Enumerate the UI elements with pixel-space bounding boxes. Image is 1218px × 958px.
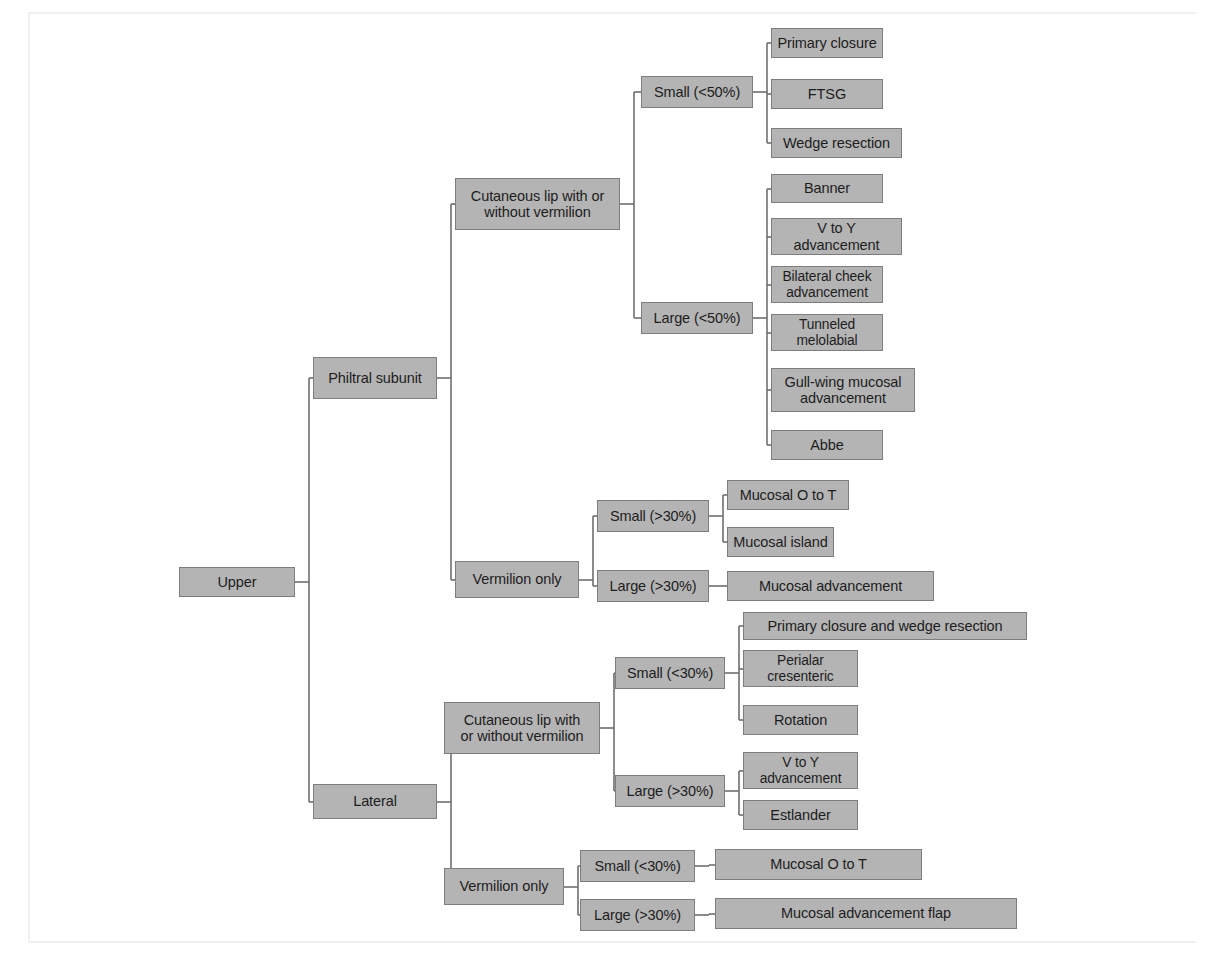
flowchart-canvas: UpperPhiltral subunitLateralCutaneous li… — [0, 0, 1218, 958]
node-mucosal-island: Mucosal island — [727, 527, 834, 557]
node-mucosal-o-to-t-2: Mucosal O to T — [715, 849, 922, 880]
node-l-cut-small: Small (<30%) — [615, 657, 725, 689]
node-mucosal-adv-flap: Mucosal advancement flap — [715, 898, 1017, 929]
node-wedge-resection: Wedge resection — [771, 128, 902, 158]
node-p-verm-large: Large (>30%) — [597, 570, 709, 602]
node-rotation: Rotation — [743, 705, 858, 735]
node-p-cut-large: Large (<50%) — [641, 302, 753, 334]
node-l-verm-large: Large (>30%) — [580, 899, 695, 931]
node-estlander: Estlander — [743, 800, 858, 830]
node-l-cut: Cutaneous lip with or without vermilion — [444, 702, 600, 754]
node-tunneled: Tunneled melolabial — [771, 314, 883, 351]
node-l-cut-large: Large (>30%) — [615, 775, 725, 807]
node-philtral: Philtral subunit — [313, 357, 437, 399]
node-upper: Upper — [179, 567, 295, 597]
page-frame-top-rule — [28, 12, 1196, 14]
node-p-cut: Cutaneous lip with or without vermilion — [455, 178, 620, 230]
node-abbe: Abbe — [771, 430, 883, 460]
node-perialar: Perialar cresenteric — [743, 650, 858, 687]
node-lateral: Lateral — [313, 784, 437, 819]
node-p-verm: Vermilion only — [455, 561, 579, 598]
node-v-to-y-1: V to Y advancement — [771, 218, 902, 255]
node-l-verm: Vermilion only — [444, 868, 564, 905]
node-gull-wing: Gull-wing mucosal advancement — [771, 368, 915, 412]
node-primary-closure: Primary closure — [771, 28, 883, 58]
node-banner: Banner — [771, 174, 883, 203]
node-primary-wedge: Primary closure and wedge resection — [743, 612, 1027, 640]
page-frame-left-rule — [28, 12, 30, 942]
node-mucosal-adv: Mucosal advancement — [727, 571, 934, 601]
node-l-verm-small: Small (<30%) — [580, 850, 695, 882]
page-frame-bottom-rule — [28, 941, 1196, 943]
node-v-to-y-2: V to Y advancement — [743, 752, 858, 789]
connector-lines — [0, 0, 1218, 958]
node-p-verm-small: Small (>30%) — [597, 500, 709, 532]
node-ftsg: FTSG — [771, 79, 883, 109]
node-mucosal-o-to-t-1: Mucosal O to T — [727, 480, 849, 510]
node-bilateral-cheek: Bilateral cheek advancement — [771, 266, 883, 303]
node-p-cut-small: Small (<50%) — [641, 76, 753, 108]
